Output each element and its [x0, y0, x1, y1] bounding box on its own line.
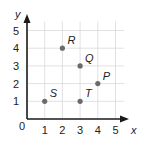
y-axis-label: y [14, 8, 22, 20]
x-axis-arrow-icon [120, 116, 129, 123]
y-tick-label: 3 [13, 60, 19, 72]
x-tick-label: 4 [95, 124, 101, 136]
origin-label: 0 [19, 120, 25, 132]
y-tick-label: 4 [13, 42, 19, 54]
x-axis-label: x [130, 124, 137, 136]
y-tick-label: 1 [13, 95, 19, 107]
y-tick-label: 2 [13, 78, 19, 90]
point-r [60, 46, 65, 51]
x-tick-label: 1 [42, 124, 48, 136]
data-points: RQPST [42, 34, 111, 104]
y-tick-label: 5 [13, 25, 19, 37]
point-q [78, 63, 83, 68]
point-p [95, 81, 100, 86]
x-tick-label: 5 [112, 124, 118, 136]
coordinate-plane: 1234512345 x y 0 RQPST [0, 0, 145, 145]
x-tick-label: 2 [59, 124, 65, 136]
point-label-r: R [67, 34, 75, 46]
point-label-s: S [50, 87, 58, 99]
point-t [78, 99, 83, 104]
point-label-q: Q [85, 52, 94, 64]
point-label-p: P [103, 70, 111, 82]
point-s [42, 99, 47, 104]
x-tick-label: 3 [77, 124, 83, 136]
point-label-t: T [85, 87, 93, 99]
y-axis-arrow-icon [24, 14, 31, 23]
